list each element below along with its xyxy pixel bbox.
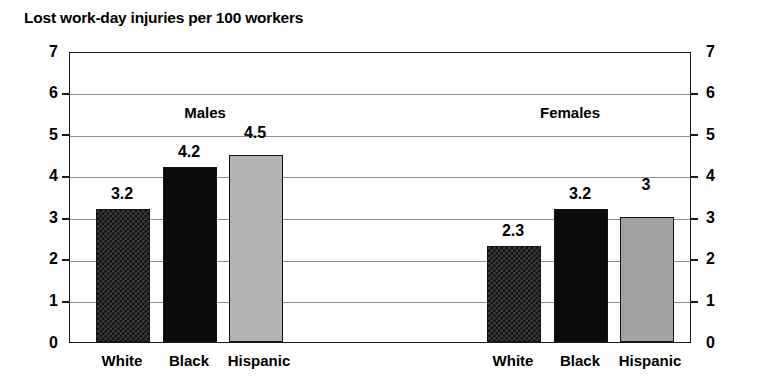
value-label-males-black: 4.2: [178, 143, 200, 161]
x-axis-label-males-white: White: [102, 352, 143, 369]
x-axis-label-females-white: White: [493, 352, 534, 369]
value-label-males-hispanic: 4.5: [244, 124, 266, 142]
tick-right-1: [691, 301, 698, 303]
tick-left-1: [62, 301, 69, 303]
value-label-females-white: 2.3: [502, 222, 524, 240]
bar-males-white[interactable]: [96, 209, 150, 342]
bar-males-hispanic[interactable]: [229, 155, 283, 342]
y-axis-right-tick-5: 5: [706, 127, 715, 143]
tick-left-3: [62, 218, 69, 220]
x-axis-label-females-black: Black: [560, 352, 600, 369]
y-axis-left-tick-4: 4: [49, 168, 58, 184]
bar-females-black[interactable]: [554, 209, 608, 342]
tick-right-6: [691, 93, 698, 95]
tick-left-2: [62, 259, 69, 261]
bar-males-black[interactable]: [163, 167, 217, 342]
tick-right-2: [691, 259, 698, 261]
x-axis-label-males-black: Black: [169, 352, 209, 369]
bar-females-white[interactable]: [487, 246, 541, 342]
y-axis-left-tick-6: 6: [49, 85, 58, 101]
y-axis-left-tick-0: 0: [49, 335, 58, 351]
group-caption-females: Females: [540, 104, 600, 121]
chart-container: Lost work-day injuries per 100 workers 7…: [0, 0, 760, 385]
value-label-females-hispanic: 3: [642, 176, 651, 194]
y-axis-right-tick-4: 4: [706, 168, 715, 184]
chart-title: Lost work-day injuries per 100 workers: [24, 9, 303, 27]
y-axis-left-tick-7: 7: [49, 44, 58, 60]
y-axis-left-tick-3: 3: [49, 210, 58, 226]
plot-area: [69, 52, 691, 343]
value-label-males-white: 3.2: [111, 185, 133, 203]
bar-females-hispanic[interactable]: [620, 217, 674, 342]
value-label-females-black: 3.2: [569, 185, 591, 203]
y-axis-right-tick-3: 3: [706, 210, 715, 226]
y-axis-right-tick-2: 2: [706, 251, 715, 267]
y-axis-right-tick-0: 0: [706, 335, 715, 351]
group-caption-males: Males: [184, 104, 226, 121]
x-axis-label-males-hispanic: Hispanic: [228, 352, 291, 369]
tick-right-4: [691, 176, 698, 178]
gridline-6: [70, 94, 690, 95]
y-axis-left-tick-2: 2: [49, 251, 58, 267]
y-axis-right-tick-1: 1: [706, 293, 715, 309]
x-axis-label-females-hispanic: Hispanic: [619, 352, 682, 369]
y-axis-right-tick-6: 6: [706, 85, 715, 101]
gridline-5: [70, 136, 690, 137]
tick-right-5: [691, 134, 698, 136]
y-axis-left-tick-5: 5: [49, 127, 58, 143]
tick-left-6: [62, 93, 69, 95]
y-axis-right-tick-7: 7: [706, 44, 715, 60]
tick-left-5: [62, 134, 69, 136]
tick-left-4: [62, 176, 69, 178]
y-axis-left-tick-1: 1: [49, 293, 58, 309]
tick-right-3: [691, 218, 698, 220]
